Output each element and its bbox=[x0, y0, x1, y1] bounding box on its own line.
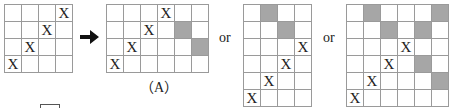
x-mark-cell: X bbox=[22, 39, 39, 56]
grid-cell bbox=[398, 5, 415, 22]
grid-cell bbox=[244, 73, 261, 90]
grid-cell bbox=[124, 5, 141, 22]
shaded-cell bbox=[261, 5, 278, 22]
grid-cell bbox=[158, 39, 175, 56]
right-arrow-icon bbox=[78, 28, 100, 46]
shaded-cell bbox=[415, 22, 432, 39]
x-mark-cell: X bbox=[295, 39, 312, 56]
x-mark-cell: X bbox=[124, 39, 141, 56]
grid-cell bbox=[5, 22, 22, 39]
grid-cell bbox=[278, 73, 295, 90]
grid-cell bbox=[192, 5, 209, 22]
grid-cell bbox=[295, 22, 312, 39]
grid-cell bbox=[39, 39, 56, 56]
x-mark-cell: X bbox=[278, 56, 295, 73]
grid-cell bbox=[158, 56, 175, 73]
grid-cell bbox=[192, 22, 209, 39]
grid-cell bbox=[261, 22, 278, 39]
grid-cell bbox=[278, 5, 295, 22]
or-label-2: or bbox=[323, 30, 335, 46]
grid-cell bbox=[244, 56, 261, 73]
grid-cell bbox=[261, 56, 278, 73]
grid-cell bbox=[432, 56, 449, 73]
grid-cell bbox=[347, 73, 364, 90]
grid-cell bbox=[364, 56, 381, 73]
grid-cell bbox=[175, 56, 192, 73]
grid-cell bbox=[107, 22, 124, 39]
x-mark-cell: X bbox=[39, 22, 56, 39]
or-label-1: or bbox=[219, 30, 231, 46]
grid-original: XXXX bbox=[4, 4, 73, 73]
grid-cell bbox=[261, 39, 278, 56]
grid-cell bbox=[141, 5, 158, 22]
shaded-cell bbox=[381, 22, 398, 39]
grid-cell bbox=[398, 56, 415, 73]
grid-cell bbox=[107, 5, 124, 22]
grid-cell bbox=[278, 39, 295, 56]
x-mark-cell: X bbox=[364, 73, 381, 90]
x-mark-cell: X bbox=[5, 56, 22, 73]
grid-cell bbox=[364, 22, 381, 39]
shaded-cell bbox=[432, 73, 449, 90]
grid-cell bbox=[56, 56, 73, 73]
grid-cell bbox=[261, 90, 278, 107]
grid-option-a: XXXX bbox=[106, 4, 209, 73]
grid-cell bbox=[381, 5, 398, 22]
grid-cell bbox=[22, 22, 39, 39]
grid-cell bbox=[5, 39, 22, 56]
shaded-cell bbox=[192, 39, 209, 56]
grid-option-b: XXXX bbox=[243, 4, 312, 107]
grid-option-c: XXXX bbox=[346, 4, 449, 107]
grid-cell bbox=[295, 5, 312, 22]
x-mark-cell: X bbox=[398, 39, 415, 56]
grid-cell bbox=[278, 90, 295, 107]
grid-cell bbox=[295, 73, 312, 90]
grid-cell bbox=[398, 90, 415, 107]
grid-cell bbox=[124, 22, 141, 39]
grid-cell bbox=[381, 73, 398, 90]
shaded-cell bbox=[175, 22, 192, 39]
grid-cell bbox=[364, 39, 381, 56]
grid-cell bbox=[415, 73, 432, 90]
grid-cell bbox=[295, 90, 312, 107]
grid-cell bbox=[56, 39, 73, 56]
grid-cell bbox=[432, 22, 449, 39]
grid-cell bbox=[415, 5, 432, 22]
shaded-cell bbox=[415, 56, 432, 73]
grid-cell bbox=[347, 39, 364, 56]
grid-cell bbox=[192, 56, 209, 73]
grid-cell bbox=[432, 90, 449, 107]
grid-cell bbox=[432, 39, 449, 56]
grid-cell bbox=[381, 90, 398, 107]
grid-cell bbox=[347, 5, 364, 22]
shaded-cell bbox=[278, 22, 295, 39]
grid-cell bbox=[398, 22, 415, 39]
x-mark-cell: X bbox=[347, 90, 364, 107]
x-mark-cell: X bbox=[261, 73, 278, 90]
grid-cell bbox=[56, 22, 73, 39]
grid-cell bbox=[175, 39, 192, 56]
x-mark-cell: X bbox=[244, 90, 261, 107]
grid-cell bbox=[141, 56, 158, 73]
grid-cell bbox=[158, 22, 175, 39]
grid-cell bbox=[415, 90, 432, 107]
legend-swatch bbox=[40, 104, 60, 108]
grid-cell bbox=[295, 56, 312, 73]
grid-cell bbox=[39, 5, 56, 22]
shaded-cell bbox=[364, 5, 381, 22]
grid-cell bbox=[22, 56, 39, 73]
grid-cell bbox=[347, 22, 364, 39]
grid-cell bbox=[415, 39, 432, 56]
x-mark-cell: X bbox=[141, 22, 158, 39]
x-mark-cell: X bbox=[381, 56, 398, 73]
shaded-cell bbox=[432, 5, 449, 22]
grid-cell bbox=[347, 56, 364, 73]
x-mark-cell: X bbox=[158, 5, 175, 22]
grid-cell bbox=[124, 56, 141, 73]
x-mark-cell: X bbox=[56, 5, 73, 22]
option-a-label: （A） bbox=[140, 76, 178, 96]
grid-cell bbox=[5, 5, 22, 22]
grid-cell bbox=[107, 39, 124, 56]
grid-cell bbox=[22, 5, 39, 22]
grid-cell bbox=[175, 5, 192, 22]
